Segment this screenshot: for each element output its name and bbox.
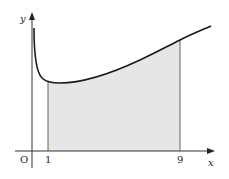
tick-label-9: 9: [177, 154, 183, 165]
y-axis-label: y: [19, 13, 26, 24]
area-under-curve-diagram: y x O 1 9: [0, 0, 229, 179]
x-axis-arrow-icon: [207, 148, 215, 154]
tick-label-1: 1: [45, 154, 51, 165]
shaded-region: [48, 40, 180, 151]
y-axis-arrow-icon: [29, 12, 35, 20]
origin-label: O: [20, 154, 28, 165]
x-axis-label: x: [208, 157, 214, 168]
